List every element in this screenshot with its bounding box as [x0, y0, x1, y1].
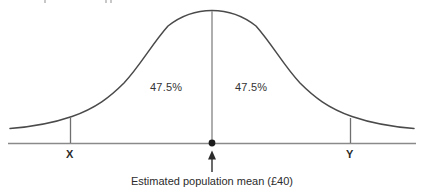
up-arrow-icon	[208, 151, 216, 173]
axis-label-x: X	[66, 148, 73, 160]
normal-distribution-figure: 47.5% 47.5% X Y Estimated population mea…	[0, 0, 424, 193]
axis-label-y: Y	[346, 148, 353, 160]
area-label-left: 47.5%	[150, 81, 182, 94]
filled-dot-marker	[209, 140, 216, 147]
distribution-curve-svg	[0, 0, 424, 193]
mean-caption: Estimated population mean (£40)	[0, 174, 424, 188]
area-label-right: 47.5%	[235, 81, 267, 94]
